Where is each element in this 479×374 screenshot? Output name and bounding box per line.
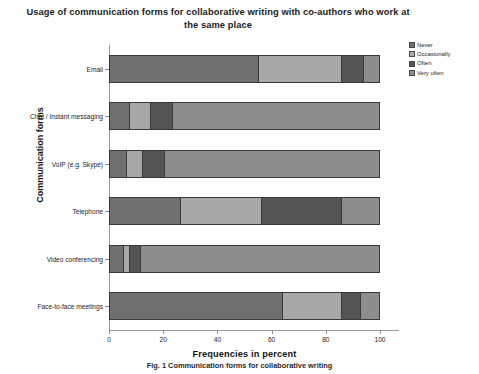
bar-row <box>109 102 380 130</box>
bar-segment-often <box>341 293 360 319</box>
x-tick-label: 60 <box>268 336 275 343</box>
legend-label: Never <box>417 42 433 49</box>
x-axis-line <box>109 330 399 331</box>
x-tick-label: 0 <box>107 336 111 343</box>
legend-swatch-icon <box>409 70 415 76</box>
chart-figure: Usage of communication forms for collabo… <box>0 0 479 374</box>
bar-segment-very-often <box>172 103 379 129</box>
legend-item: Often <box>409 60 475 68</box>
bar-segment-occasionally <box>180 198 261 224</box>
legend-item: Occasionally <box>409 50 475 58</box>
bar-row <box>109 245 380 273</box>
bar-segment-very-often <box>341 198 379 224</box>
bar-segment-never <box>110 103 129 129</box>
bar-segment-never <box>110 293 282 319</box>
x-tick-mark <box>326 330 327 334</box>
x-tick-label: 100 <box>374 336 385 343</box>
y-tick-mark <box>105 69 109 70</box>
y-tick-label-group: EmailChat / Instant messagingVoIP (e.g. … <box>0 45 103 330</box>
y-tick-mark <box>105 306 109 307</box>
legend-label: Very often <box>417 70 444 77</box>
y-tick-label: Face-to-face meetings <box>37 303 103 310</box>
bar-segment-very-often <box>360 293 379 319</box>
x-tick-mark <box>109 330 110 334</box>
bar-row <box>109 55 380 83</box>
bar-row <box>109 150 380 178</box>
x-tick-mark <box>380 330 381 334</box>
bar-segment-occasionally <box>258 56 341 82</box>
chart-title: Usage of communication forms for collabo… <box>18 6 418 31</box>
bar-segment-very-often <box>363 56 379 82</box>
bar-segment-never <box>110 56 258 82</box>
bar-segment-very-often <box>140 246 379 272</box>
bar-segment-often <box>341 56 363 82</box>
bar-row <box>109 197 380 225</box>
legend-label: Occasionally <box>417 51 450 58</box>
x-tick-mark <box>163 330 164 334</box>
legend-label: Often <box>417 60 431 67</box>
bar-row <box>109 292 380 320</box>
x-tick-label: 80 <box>322 336 329 343</box>
bar-segment-very-often <box>164 151 379 177</box>
y-tick-mark <box>105 116 109 117</box>
y-tick-label: Telephone <box>73 208 103 215</box>
y-tick-mark <box>105 211 109 212</box>
figure-caption: Fig. 1 Communication forms for collabora… <box>0 361 479 373</box>
bar-segment-never <box>110 246 123 272</box>
x-tick-label: 40 <box>214 336 221 343</box>
bar-segment-occasionally <box>129 103 151 129</box>
legend-item: Never <box>409 41 475 49</box>
bar-segment-often <box>261 198 342 224</box>
y-tick-label: VoIP (e.g. Skype) <box>52 160 103 167</box>
x-tick-mark <box>217 330 218 334</box>
x-axis-title: Frequencies in percent <box>109 349 380 359</box>
x-tick-label: 20 <box>160 336 167 343</box>
bar-segment-never <box>110 198 180 224</box>
bar-segment-occasionally <box>126 151 142 177</box>
y-tick-label: Chat / Instant messaging <box>30 113 103 120</box>
bar-segment-occasionally <box>282 293 341 319</box>
legend-swatch-icon <box>409 51 415 57</box>
legend-item: Very often <box>409 69 475 77</box>
bar-segment-often <box>150 103 172 129</box>
legend-swatch-icon <box>409 42 415 48</box>
y-tick-label: Video conferencing <box>47 255 103 262</box>
bar-segment-often <box>129 246 140 272</box>
plot-area <box>109 45 380 330</box>
bar-segment-often <box>142 151 164 177</box>
legend-swatch-icon <box>409 61 415 67</box>
y-tick-mark <box>105 164 109 165</box>
y-tick-label: Email <box>87 65 104 72</box>
bar-segment-never <box>110 151 126 177</box>
chart-legend: NeverOccasionallyOftenVery often <box>409 41 475 79</box>
x-tick-mark <box>272 330 273 334</box>
y-tick-mark <box>105 259 109 260</box>
